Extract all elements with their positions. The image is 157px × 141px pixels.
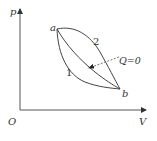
x-axis-label: V <box>139 116 148 127</box>
point-a-label: a <box>50 22 56 33</box>
q-zero-label: Q=0 <box>119 55 141 66</box>
pv-diagram: p V O a b 2 1 Q=0 <box>0 0 157 141</box>
curve-2-label: 2 <box>93 36 99 47</box>
curve-1-label: 1 <box>66 67 72 78</box>
curve-2 <box>57 28 120 89</box>
point-b-label: b <box>122 88 128 99</box>
origin-label: O <box>8 116 16 127</box>
y-axis-label: p <box>10 6 17 17</box>
